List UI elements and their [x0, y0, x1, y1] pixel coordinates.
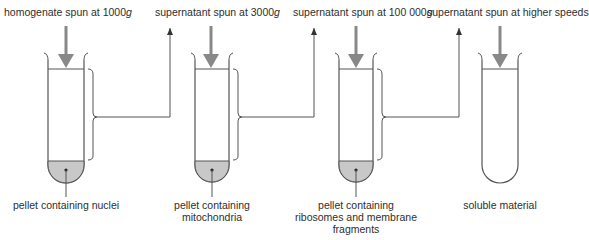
- step-1-input-label: homogenate spun at 1000g: [4, 6, 132, 18]
- step-3-result-label: pellet containing ribosomes and membrane…: [291, 199, 421, 235]
- step-2-result-label: pellet containing mitochondria: [152, 199, 272, 223]
- tube-4: [478, 26, 522, 183]
- transfer-arrow-1-to-2: [97, 28, 170, 117]
- arrow-head-down-icon: [203, 54, 219, 68]
- tube-2: [191, 26, 314, 197]
- step-4-input-label: supernatant spun at higher speeds: [427, 6, 589, 18]
- supernatant-brace: [377, 69, 386, 160]
- supernatant-brace: [233, 69, 242, 160]
- tube-3: [335, 26, 459, 197]
- arrow-head-down-icon: [492, 54, 508, 68]
- arrow-head-down-icon: [58, 54, 74, 68]
- step-3-input-label: supernatant spun at 100 000g: [293, 6, 433, 18]
- step-2-input-label: supernatant spun at 3000g: [155, 6, 280, 18]
- tube-1: [44, 26, 170, 197]
- supernatant-brace: [88, 69, 97, 160]
- transfer-arrow-3-to-4: [386, 28, 459, 117]
- transfer-arrow-2-to-3: [242, 28, 314, 117]
- arrow-head-down-icon: [348, 54, 364, 68]
- step-4-result-label: soluble material: [450, 199, 550, 211]
- step-1-result-label: pellet containing nuclei: [6, 199, 126, 211]
